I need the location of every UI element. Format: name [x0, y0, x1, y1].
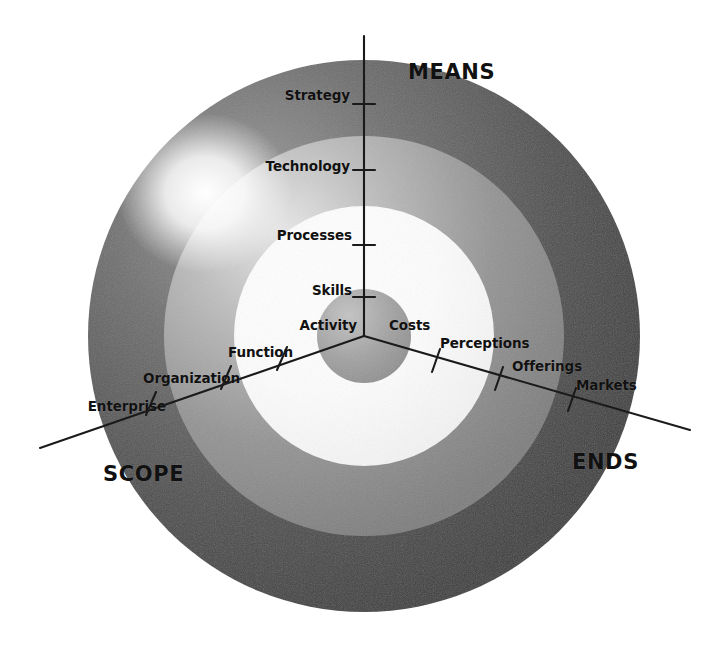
specular-highlight — [117, 113, 293, 273]
diagram-canvas: Strategy Technology Processes Skills MEA… — [0, 0, 726, 649]
ring-diagram-svg — [0, 0, 726, 649]
